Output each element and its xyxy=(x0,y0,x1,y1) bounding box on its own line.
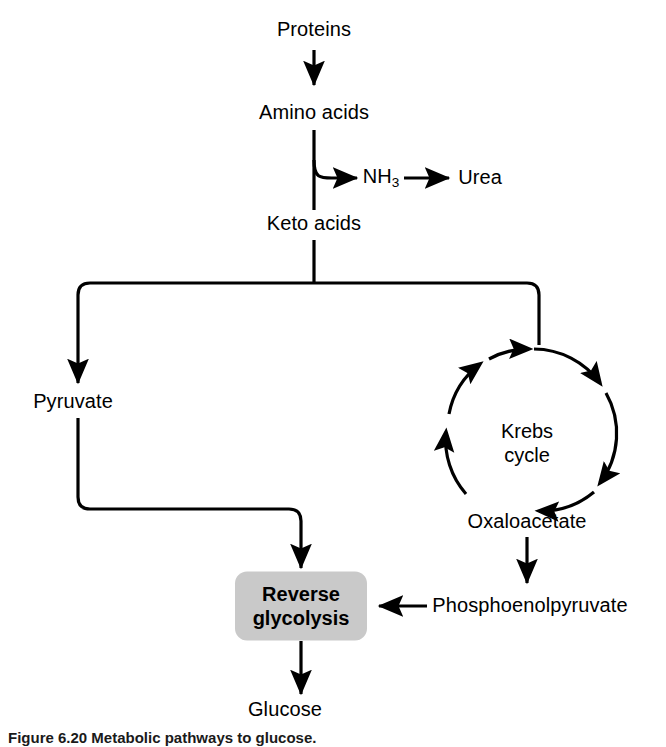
node-amino-acids: Amino acids xyxy=(259,101,369,125)
corner-bus-left xyxy=(78,283,90,295)
krebs-arc-top-left xyxy=(449,364,480,414)
krebs-arc-top-right xyxy=(534,349,600,383)
corner-pyruvate-to-box xyxy=(289,509,301,521)
node-keto-acids: Keto acids xyxy=(267,212,361,236)
krebs-arc-bottom-right xyxy=(539,492,594,511)
node-reverse-glycolysis-box: Reverse glycolysis xyxy=(235,572,367,641)
node-phosphoenolpyruvate: Phosphoenolpyruvate xyxy=(432,594,627,618)
node-proteins: Proteins xyxy=(277,18,351,42)
node-glucose: Glucose xyxy=(248,698,322,722)
corner-bus-right xyxy=(527,283,539,295)
figure-caption: Figure 6.20 Metabolic pathways to glucos… xyxy=(8,729,658,747)
node-pyruvate: Pyruvate xyxy=(33,390,113,414)
node-oxaloacetate: Oxaloacetate xyxy=(467,510,586,534)
krebs-arc-top xyxy=(489,349,529,359)
node-ammonia: NH3 xyxy=(363,165,400,190)
corner-pyruvate xyxy=(78,497,90,509)
node-reverse-glycolysis-label: Reverse glycolysis xyxy=(253,582,350,629)
node-urea: Urea xyxy=(458,166,502,190)
node-krebs-cycle: Krebs cycle xyxy=(501,419,553,468)
krebs-arc-right xyxy=(600,393,617,483)
arrow-amino-acids-to-ammonia xyxy=(314,160,357,178)
metabolic-pathway-diagram: Proteins Amino acids NH3 Urea Keto acids… xyxy=(0,0,666,747)
krebs-arc-left xyxy=(446,432,466,494)
node-ammonia-formula: NH xyxy=(363,165,392,187)
node-ammonia-subscript: 3 xyxy=(392,175,400,190)
